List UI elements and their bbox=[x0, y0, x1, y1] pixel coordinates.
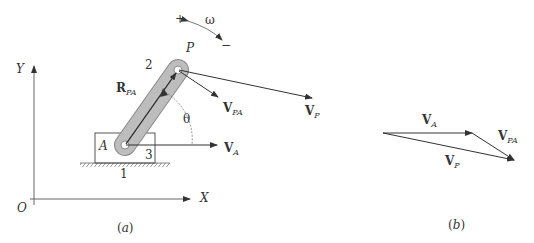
v-pa-label: VPA bbox=[223, 102, 243, 114]
link-number-label: 2 bbox=[145, 59, 153, 71]
origin-label: O bbox=[17, 202, 27, 214]
x-axis-label: X bbox=[200, 192, 209, 204]
v-pa-vector bbox=[179, 71, 218, 97]
b-v-pa-label: VPA bbox=[498, 130, 518, 142]
point-p-label: P bbox=[186, 42, 194, 54]
v-a-label: VA bbox=[224, 142, 239, 154]
y-axis-label: Y bbox=[16, 63, 24, 75]
diagram-graphics bbox=[0, 0, 534, 243]
point-a-label: A bbox=[99, 140, 108, 152]
v-p-label: VP bbox=[305, 105, 320, 117]
theta-label: θ bbox=[183, 113, 190, 125]
velocity-diagram: Y X O 2 3 1 A P θ ω + − RPA VPA VP VA (a… bbox=[0, 0, 534, 243]
ground-number-label: 1 bbox=[120, 168, 128, 180]
b-v-p-label: VP bbox=[445, 155, 460, 167]
block-number-label: 3 bbox=[145, 149, 153, 161]
caption-a: (a) bbox=[117, 222, 134, 234]
omega-plus-label: + bbox=[175, 13, 185, 25]
caption-b: (b) bbox=[448, 219, 465, 231]
omega-label: ω bbox=[205, 14, 215, 26]
r-pa-label: RPA bbox=[116, 82, 136, 94]
omega-minus-label: − bbox=[221, 39, 231, 51]
b-v-a-label: VA bbox=[422, 114, 437, 126]
